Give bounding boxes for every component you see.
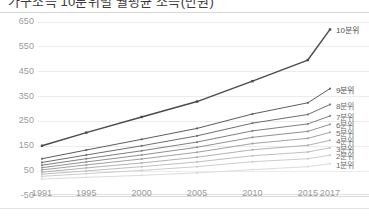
series-marker — [252, 143, 254, 145]
series-marker — [307, 102, 309, 104]
series-marker — [141, 150, 143, 152]
y-axis-tick-label: 350 — [0, 91, 34, 101]
series-marker — [41, 162, 43, 164]
series-marker — [85, 170, 87, 172]
series-marker — [41, 145, 43, 147]
series-label-10분위: 10분위 — [336, 24, 359, 35]
series-marker — [307, 59, 309, 61]
series-marker — [252, 113, 254, 115]
series-label-9분위: 9분위 — [336, 84, 354, 95]
series-marker — [41, 169, 43, 171]
series-marker — [196, 141, 198, 143]
series-marker — [141, 169, 143, 171]
series-marker — [307, 130, 309, 132]
series-marker — [85, 158, 87, 160]
series-marker — [252, 149, 254, 151]
series-marker — [307, 144, 309, 146]
series-marker — [252, 169, 254, 171]
series-marker — [329, 115, 331, 117]
series-marker — [329, 154, 331, 156]
series-marker — [196, 135, 198, 137]
series-lines — [42, 29, 330, 179]
series-marker — [307, 123, 309, 125]
series-marker — [41, 171, 43, 173]
x-axis-tick-label: 1991 — [22, 188, 62, 198]
series-marker — [252, 155, 254, 157]
series-marker — [329, 88, 331, 90]
series-marker — [196, 100, 198, 102]
series-line — [42, 148, 330, 174]
series-marker — [252, 136, 254, 138]
series-marker — [196, 156, 198, 158]
series-marker — [196, 166, 198, 168]
y-axis-tick-label: 150 — [0, 140, 34, 150]
y-axis-tick-label: 50 — [0, 165, 34, 175]
series-marker — [85, 149, 87, 151]
series-marker — [196, 172, 198, 174]
x-axis-tick-label: 2000 — [122, 188, 162, 198]
series-marker — [141, 166, 143, 168]
y-axis-tick-label: 450 — [0, 66, 34, 76]
y-axis-tick-label: 550 — [0, 41, 34, 51]
series-marker — [329, 163, 331, 165]
series-marker — [329, 147, 331, 149]
chart-container: 가구소득 10분위별 월평균 소득(만원) 650550450350250150… — [0, 0, 369, 217]
series-marker — [196, 146, 198, 148]
series-marker — [85, 161, 87, 163]
series-marker — [307, 114, 309, 116]
series-marker — [41, 167, 43, 169]
x-axis-tick-label: 2010 — [232, 188, 272, 198]
series-marker — [329, 139, 331, 141]
series-label-1분위: 1분위 — [336, 159, 354, 170]
series-marker — [85, 131, 87, 133]
series-marker — [251, 80, 253, 82]
series-marker — [329, 131, 331, 133]
series-marker — [329, 104, 331, 106]
series-marker — [85, 164, 87, 166]
series-marker — [41, 164, 43, 166]
series-marker — [140, 116, 142, 118]
series-marker — [41, 158, 43, 160]
series-marker — [307, 137, 309, 139]
series-marker — [141, 138, 143, 140]
series-marker — [307, 166, 309, 168]
series-marker — [41, 178, 43, 180]
series-label-8분위: 8분위 — [336, 100, 354, 111]
series-marker — [141, 162, 143, 164]
x-axis-tick-label: 1995 — [66, 188, 106, 198]
series-marker — [141, 158, 143, 160]
series-marker — [85, 176, 87, 178]
series-marker — [329, 124, 331, 126]
series-marker — [141, 174, 143, 176]
series-marker — [252, 161, 254, 163]
bottom-divider — [0, 208, 369, 209]
series-marker — [85, 154, 87, 156]
series-marker — [329, 28, 331, 30]
series-marker — [85, 167, 87, 169]
series-marker — [252, 130, 254, 132]
series-marker — [196, 151, 198, 153]
series-marker — [85, 173, 87, 175]
y-axis-tick-label: 650 — [0, 16, 34, 26]
x-axis-tick-label: 2005 — [177, 188, 217, 198]
series-marker — [41, 175, 43, 177]
series-marker — [196, 161, 198, 163]
series-marker — [141, 154, 143, 156]
series-marker — [307, 158, 309, 160]
y-axis-tick-label: 250 — [0, 115, 34, 125]
series-line — [42, 89, 330, 159]
series-marker — [41, 173, 43, 175]
series-marker — [307, 151, 309, 153]
series-marker — [252, 122, 254, 124]
series-marker — [141, 145, 143, 147]
series-marker — [196, 127, 198, 129]
line-chart-plot — [0, 0, 369, 217]
x-axis-tick-label: 2017 — [310, 188, 350, 198]
